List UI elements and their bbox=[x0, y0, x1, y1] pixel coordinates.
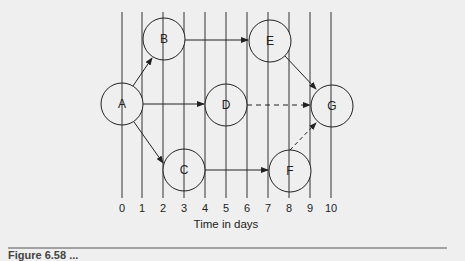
tick-9: 9 bbox=[307, 202, 313, 214]
tick-7: 7 bbox=[265, 202, 271, 214]
node-label-a: A bbox=[118, 97, 126, 111]
edge-f-g bbox=[290, 123, 316, 150]
x-axis-label: Time in days bbox=[194, 218, 259, 230]
tick-5: 5 bbox=[223, 202, 229, 214]
node-label-b: B bbox=[160, 32, 168, 46]
tick-1: 1 bbox=[139, 202, 145, 214]
tick-3: 3 bbox=[181, 202, 187, 214]
figure-caption: Figure 6.58 ... bbox=[8, 249, 78, 261]
tick-labels: 0 1 2 3 4 5 6 7 8 9 10 bbox=[119, 202, 337, 214]
tick-2: 2 bbox=[160, 202, 166, 214]
edge-a-c bbox=[134, 122, 163, 163]
tick-10: 10 bbox=[325, 202, 337, 214]
edge-e-g bbox=[285, 56, 316, 89]
node-label-d: D bbox=[222, 98, 231, 112]
tick-4: 4 bbox=[202, 202, 208, 214]
tick-6: 6 bbox=[244, 202, 250, 214]
tick-8: 8 bbox=[286, 202, 292, 214]
node-label-c: C bbox=[180, 163, 189, 177]
tick-0: 0 bbox=[119, 202, 125, 214]
node-label-f: F bbox=[286, 164, 293, 178]
node-label-g: G bbox=[327, 99, 336, 113]
node-label-e: E bbox=[266, 34, 274, 48]
